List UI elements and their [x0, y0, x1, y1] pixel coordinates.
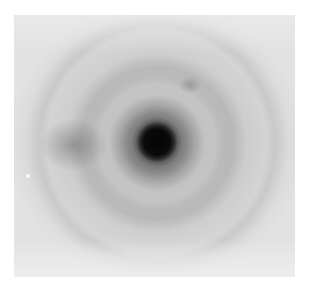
white-speck [26, 174, 30, 178]
diffraction-image [14, 15, 295, 277]
bottom-edge-fade [14, 15, 295, 277]
